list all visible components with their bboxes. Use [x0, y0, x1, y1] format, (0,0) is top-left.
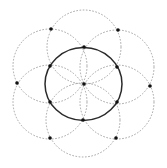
inner-point-4 [81, 118, 85, 122]
seed-of-life-diagram [0, 0, 167, 168]
outer-point-2 [116, 28, 120, 32]
outer-point-5 [48, 136, 52, 140]
outer-point-6 [15, 81, 19, 85]
inner-point-1 [82, 45, 86, 49]
outer-point-3 [148, 84, 152, 88]
inner-point-6 [48, 64, 52, 68]
center-point [82, 82, 86, 86]
inner-point-2 [115, 65, 119, 69]
inner-point-3 [115, 100, 119, 104]
inner-point-5 [48, 100, 52, 104]
outer-point-1 [49, 27, 53, 31]
outer-point-4 [114, 136, 118, 140]
